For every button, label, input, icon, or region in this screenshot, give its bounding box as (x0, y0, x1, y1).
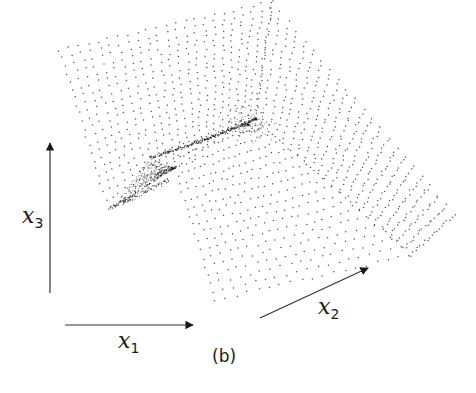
x2-axis-label: x2 (318, 296, 339, 321)
surface-plot (0, 0, 476, 393)
surface-dots (58, 0, 456, 301)
x2-axis-arrow (260, 268, 368, 318)
x1-subscript: 1 (130, 340, 139, 356)
x1-symbol: x (118, 328, 130, 353)
surface-figure: x3 x1 x2 (b) (0, 0, 476, 393)
x2-symbol: x (318, 294, 330, 319)
x3-subscript: 3 (34, 215, 43, 231)
x2-subscript: 2 (330, 306, 339, 322)
x3-axis-label: x3 (22, 205, 43, 230)
figure-caption: (b) (212, 346, 236, 366)
x3-symbol: x (22, 203, 34, 228)
x1-axis-label: x1 (118, 330, 139, 355)
